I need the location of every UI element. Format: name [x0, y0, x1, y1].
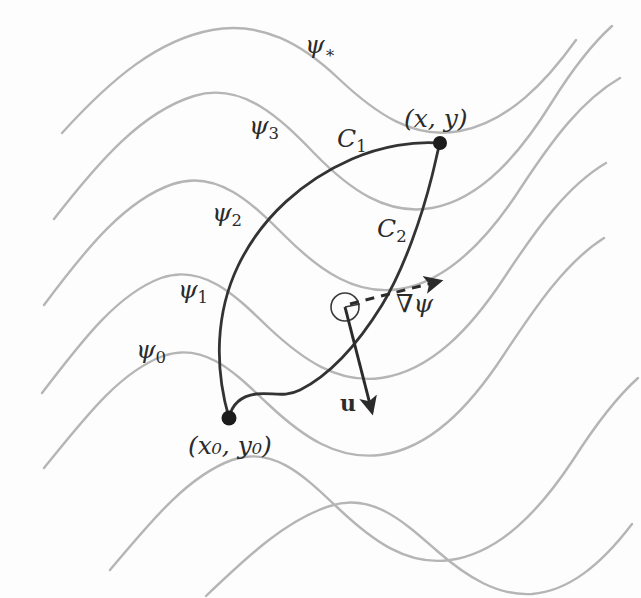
level-curve-psi2	[44, 78, 620, 305]
label-c1: C1	[337, 126, 367, 155]
path-c1	[219, 143, 440, 418]
level-curve-psi0-lower	[110, 378, 638, 570]
level-curve-psi1	[42, 163, 606, 393]
label-psi-3: ψ3	[249, 113, 279, 142]
level-curve-psi0	[44, 238, 604, 468]
level-curve-diagram: ψ0 ψ1 ψ2 ψ3 ψ∗ C1 C2 (x, y) (x₀, y₀) ∇ψ …	[0, 0, 641, 598]
point-dot-end	[433, 136, 447, 150]
label-psi-2: ψ2	[212, 200, 242, 229]
level-curve-group	[42, 26, 638, 596]
point-dot-start	[222, 411, 237, 426]
label-psi-1: ψ1	[178, 277, 208, 306]
label-grad-psi: ∇ψ	[396, 291, 433, 316]
level-curve-psi0-lower2	[206, 502, 632, 596]
label-point-x0y0: (x₀, y₀)	[188, 433, 272, 458]
diagram-canvas	[0, 0, 641, 598]
path-c2	[229, 143, 440, 418]
label-psi-star: ψ∗	[305, 32, 336, 61]
label-psi-0: ψ0	[136, 337, 166, 366]
label-c2: C2	[377, 216, 407, 245]
label-point-xy: (x, y)	[404, 106, 468, 131]
label-vector-u: u	[340, 392, 356, 414]
